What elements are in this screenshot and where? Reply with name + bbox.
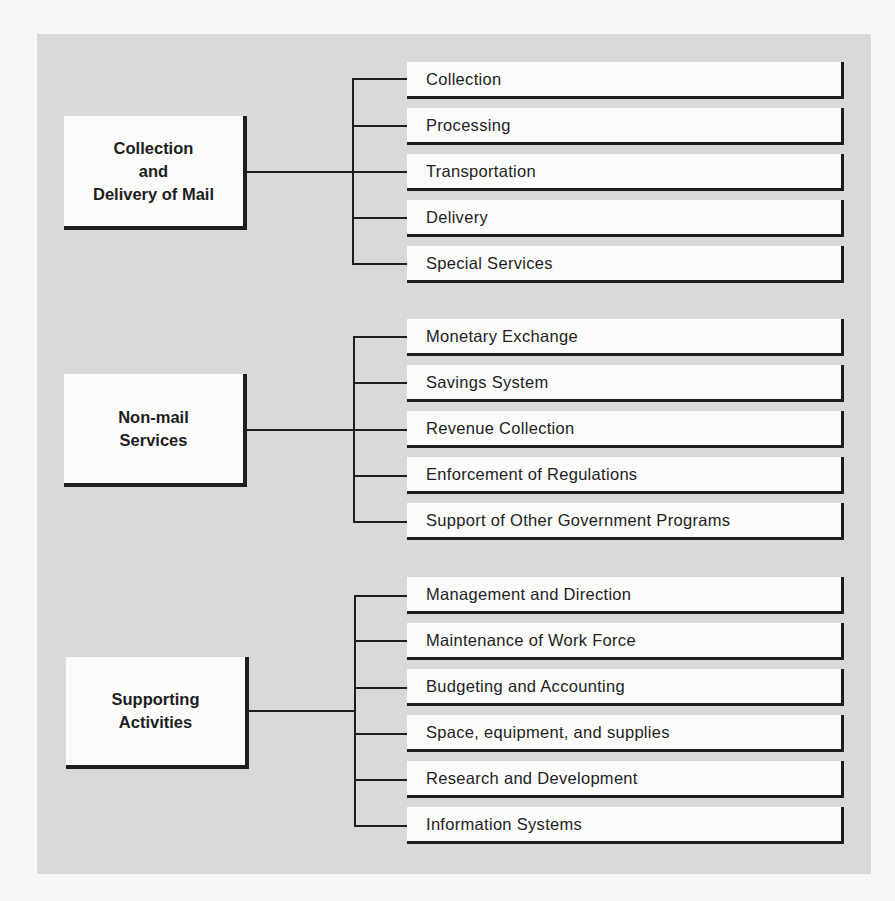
connector-line	[352, 125, 407, 127]
connector-line	[354, 595, 407, 597]
connector-line	[353, 382, 407, 384]
connector-line	[352, 171, 407, 173]
connector-line	[352, 78, 407, 80]
connector-line	[354, 687, 407, 689]
root-box-supporting-activities: Supporting Activities	[66, 657, 249, 769]
leaf-maintenance-of-work-force: Maintenance of Work Force	[407, 623, 844, 660]
connector-line	[247, 171, 353, 173]
connector-line	[354, 779, 407, 781]
leaf-space-equipment-supplies: Space, equipment, and supplies	[407, 715, 844, 752]
root-box-non-mail-services: Non-mail Services	[64, 374, 247, 487]
connector-line	[247, 429, 353, 431]
connector-line	[353, 429, 407, 431]
leaf-special-services: Special Services	[407, 246, 844, 283]
leaf-processing: Processing	[407, 108, 844, 145]
connector-line	[354, 640, 407, 642]
root-box-collection-delivery: Collection and Delivery of Mail	[64, 116, 247, 230]
leaf-savings-system: Savings System	[407, 365, 844, 402]
leaf-transportation: Transportation	[407, 154, 844, 191]
connector-line	[352, 217, 407, 219]
leaf-information-systems: Information Systems	[407, 807, 844, 844]
leaf-support-other-government-programs: Support of Other Government Programs	[407, 503, 844, 540]
connector-line	[354, 733, 407, 735]
connector-line	[352, 263, 407, 265]
connector-line	[353, 521, 407, 523]
connector-line	[353, 336, 407, 338]
connector-trunk	[354, 595, 356, 827]
leaf-research-and-development: Research and Development	[407, 761, 844, 798]
leaf-delivery: Delivery	[407, 200, 844, 237]
leaf-monetary-exchange: Monetary Exchange	[407, 319, 844, 356]
leaf-management-and-direction: Management and Direction	[407, 577, 844, 614]
leaf-enforcement-of-regulations: Enforcement of Regulations	[407, 457, 844, 494]
leaf-revenue-collection: Revenue Collection	[407, 411, 844, 448]
leaf-collection: Collection	[407, 62, 844, 99]
connector-line	[354, 825, 407, 827]
connector-line	[353, 475, 407, 477]
connector-line	[249, 710, 355, 712]
leaf-budgeting-and-accounting: Budgeting and Accounting	[407, 669, 844, 706]
